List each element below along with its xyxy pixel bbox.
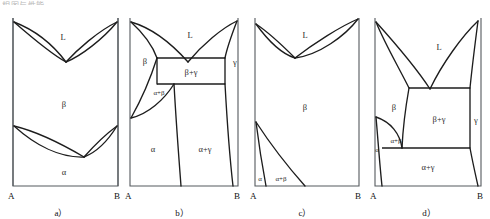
panel-b-label-gamma: γ — [232, 57, 237, 67]
panel-d-solidus-right — [470, 21, 478, 88]
panel-a-axis-label-A: A — [8, 191, 15, 201]
panel-d-liquidus-left — [376, 22, 430, 89]
phase-diagram-figure: 相图与性能 · 91 · L β α A B a） — [0, 0, 490, 219]
panel-c-label-alpha: α — [258, 175, 262, 183]
panel-c-label-beta: β — [303, 102, 307, 112]
panel-b-label-beta-gamma: β+γ — [185, 67, 198, 77]
panel-a-beta-boundary-right — [84, 126, 117, 157]
panel-a-alpha-boundary-left — [14, 126, 84, 157]
panel-a-label-beta: β — [62, 99, 66, 109]
panel-c-liquidus-left — [256, 24, 295, 58]
panel-d-beta-boundary — [402, 88, 409, 148]
panel-d-label-alpha-beta: α+β — [390, 137, 402, 145]
panel-d-label-alpha: α — [375, 146, 379, 154]
panel-d-label-beta-gamma: β+γ — [433, 114, 446, 124]
panel-a-caption: a） — [55, 208, 68, 218]
panel-d-label-alpha-gamma: α+γ — [421, 162, 434, 172]
panel-b-alpha-divider — [174, 84, 181, 186]
panel-c-axis-label-B: B — [355, 191, 361, 201]
panel-b-liquidus-left — [131, 22, 188, 62]
panel-b-diagram: L β γ β+γ α+β α α+γ A B b） — [124, 0, 243, 219]
panel-a-label-liquid: L — [60, 32, 65, 42]
panel-b-frame — [130, 18, 238, 186]
panel-a-beta-boundary-left — [14, 126, 84, 157]
panel-a-label-alpha: α — [62, 167, 67, 177]
panel-c-label-liquid: L — [302, 30, 307, 40]
panel-b-label-beta: β — [143, 56, 147, 66]
panel-b-beta-solvus — [131, 58, 157, 118]
panel-b-label-alpha-beta: α+β — [153, 89, 165, 97]
panel-b-caption: b） — [175, 208, 189, 218]
panel-c-diagram: L β α α+β A B c） — [249, 0, 363, 219]
panel-d-gamma-right-boundary — [470, 148, 478, 186]
panel-d-label-beta: β — [392, 102, 396, 112]
panel-d-axis-label-B: B — [477, 191, 483, 201]
panel-a-solidus-left — [14, 22, 66, 62]
panel-c-caption: c） — [299, 208, 312, 218]
panel-b: L β γ β+γ α+β α α+γ A B b） — [124, 0, 243, 219]
panel-d-caption: d） — [422, 208, 436, 218]
panel-d-axis-label-A: A — [370, 191, 377, 201]
panel-b-label-alpha-gamma: α+γ — [198, 144, 211, 154]
panel-d-label-liquid: L — [436, 42, 441, 52]
panel-a: L β α A B a） — [5, 0, 123, 219]
panel-a-axis-label-B: B — [114, 191, 120, 201]
panel-a-liquidus-right — [66, 22, 117, 62]
panel-a-diagram: L β α A B a） — [5, 0, 123, 219]
panel-d-label-gamma: γ — [473, 115, 478, 125]
panel-c-axis-label-A: A — [250, 191, 257, 201]
panel-b-axis-label-B: B — [234, 191, 240, 201]
panel-c: L β α α+β A B c） — [249, 0, 363, 219]
panel-b-label-liquid: L — [187, 30, 192, 40]
panel-d: L β β+γ γ α+β α α+γ A B d） — [369, 0, 490, 219]
panel-d-diagram: L β β+γ γ α+β α α+γ A B d） — [369, 0, 490, 219]
panel-b-label-alpha: α — [151, 144, 156, 154]
panel-c-label-alpha-beta: α+β — [275, 175, 287, 183]
panel-b-axis-label-A: A — [125, 191, 132, 201]
panel-a-solidus-right — [66, 22, 117, 62]
panel-b-gamma-right-boundary — [225, 84, 233, 186]
